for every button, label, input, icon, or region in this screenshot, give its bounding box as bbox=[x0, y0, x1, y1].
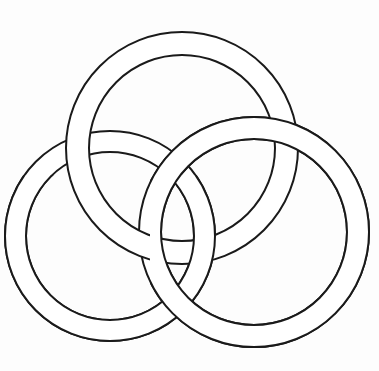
rings-illustration bbox=[0, 0, 379, 371]
interlaced-rings-drawing bbox=[0, 0, 379, 371]
